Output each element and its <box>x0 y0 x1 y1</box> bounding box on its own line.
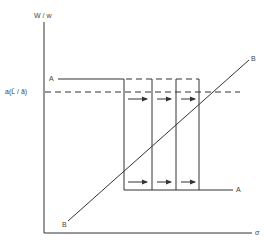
diagram: W / w a(L̄ / ā) A A B B σ <box>0 0 271 248</box>
x-axis-label: σ <box>255 229 259 237</box>
curve-b <box>68 60 249 221</box>
curve-b-label-bottom: B <box>62 221 67 229</box>
curve-a-label-left: A <box>49 75 54 83</box>
reference-label: a(L̄ / ā) <box>5 88 27 96</box>
diagram-canvas <box>0 0 271 248</box>
curve-a-label-right: A <box>236 186 241 194</box>
y-axis-label: W / w <box>34 12 52 20</box>
curve-b-label-top: B <box>251 55 256 63</box>
curve-a <box>58 79 233 190</box>
